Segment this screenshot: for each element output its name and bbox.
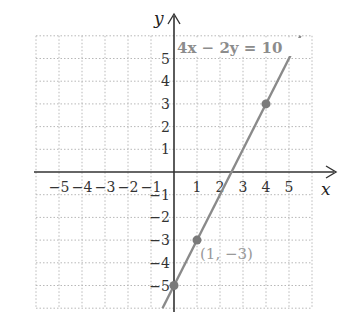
x-tick-label: 4 [262, 179, 271, 195]
x-tick-label: −3 [95, 179, 116, 195]
y-tick-label: −3 [149, 232, 170, 248]
y-tick-label: −2 [149, 209, 170, 225]
y-tick-label: 1 [161, 141, 170, 157]
data-point [170, 281, 179, 290]
point-label-1-neg3: (1, −3) [200, 245, 253, 263]
data-point [262, 99, 271, 108]
equation-label: 4x − 2y = 10 [177, 39, 282, 57]
y-tick-label: 5 [161, 51, 170, 67]
x-tick-labels: −5−4−3−2−112345 [49, 179, 294, 195]
x-tick-label: −4 [72, 179, 93, 195]
x-axis-label: x [321, 179, 331, 199]
y-tick-label: 3 [161, 96, 170, 112]
x-tick-label: 3 [239, 179, 248, 195]
y-tick-label: −5 [149, 278, 170, 294]
y-tick-label: −4 [149, 255, 170, 271]
x-tick-label: 1 [193, 179, 202, 195]
data-point [193, 236, 202, 245]
y-tick-label: 2 [161, 119, 170, 135]
x-tick-label: 5 [285, 179, 294, 195]
y-axis-label: y [153, 8, 164, 28]
y-tick-label: −1 [149, 187, 170, 203]
x-tick-label: −5 [49, 179, 70, 195]
coordinate-plane: x y −5−4−3−2−112345 54321−1−2−3−4−5 4x −… [0, 0, 354, 335]
y-tick-label: 4 [161, 73, 170, 89]
x-tick-label: −2 [118, 179, 139, 195]
